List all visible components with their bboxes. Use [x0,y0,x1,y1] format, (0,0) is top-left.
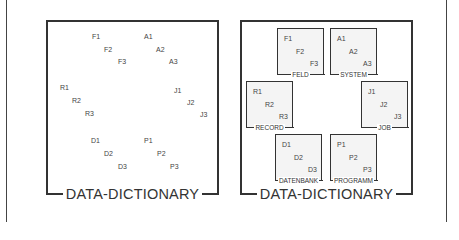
attribute-label-a1: A1 [337,35,346,43]
attribute-label-r2: R2 [72,97,81,105]
attribute-label-a3: A3 [363,60,372,68]
attribute-label-d1: D1 [91,137,100,145]
attribute-label-r3: R3 [279,113,288,121]
attribute-label-a2: A2 [156,46,165,54]
attribute-label-j2: J2 [380,101,387,109]
attribute-label-r1: R1 [253,88,262,96]
attribute-label-a1: A1 [144,33,153,41]
attribute-label-f2: F2 [296,48,304,56]
entity-box-caption: RECORD [247,124,292,132]
panel-title: DATA-DICTIONARY [242,186,411,202]
attribute-label-p2: P2 [349,154,358,162]
attribute-label-d1: D1 [282,141,291,149]
attribute-label-j1: J1 [174,87,181,95]
attribute-label-f1: F1 [284,35,292,43]
entity-box-datenbank: D1D2D3DATENBANK [275,134,322,181]
attribute-label-p1: P1 [337,141,346,149]
attribute-label-d2: D2 [104,150,113,158]
attribute-label-r2: R2 [265,101,274,109]
attribute-label-f1: F1 [92,33,100,41]
entity-box-job: J1J2J3JOB [361,81,408,128]
attribute-label-a2: A2 [349,48,358,56]
entity-box-record: R1R2R3RECORD [246,81,293,128]
entity-box-system: A1A2A3SYSTEM [330,28,377,75]
attribute-label-j3: J3 [394,113,401,121]
attribute-label-f3: F3 [310,60,318,68]
attribute-label-j1: J1 [368,88,375,96]
attribute-label-d3: D3 [308,166,317,174]
panel-title: DATA-DICTIONARY [48,186,217,202]
attribute-label-r1: R1 [60,84,69,92]
attribute-label-j2: J2 [187,99,194,107]
attribute-label-p1: P1 [144,137,153,145]
entity-box-caption: JOB [362,124,407,132]
attribute-label-f3: F3 [118,58,126,66]
attribute-label-a3: A3 [169,58,178,66]
entity-box-feld: F1F2F3FELD [277,28,324,75]
attribute-label-d2: D2 [294,154,303,162]
right-panel-grouped: DATA-DICTIONARY F1F2F3FELDA1A2A3SYSTEMR1… [240,20,413,194]
entity-box-caption: PROGRAMM [331,177,376,185]
attribute-label-d3: D3 [118,163,127,171]
attribute-label-p2: P2 [157,150,166,158]
attribute-label-j3: J3 [200,111,207,119]
attribute-label-p3: P3 [363,166,372,174]
attribute-label-p3: P3 [170,163,179,171]
entity-box-caption: SYSTEM [331,71,376,79]
left-panel-unstructured: DATA-DICTIONARY F1F2F3A1A2A3R1R2R3J1J2J3… [46,20,219,194]
entity-box-programm: P1P2P3PROGRAMM [330,134,377,181]
attribute-label-f2: F2 [104,46,112,54]
entity-box-caption: DATENBANK [276,177,321,185]
attribute-label-r3: R3 [85,110,94,118]
entity-box-caption: FELD [278,71,323,79]
